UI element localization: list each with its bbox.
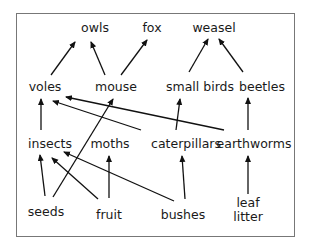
arrow-smallbirds-to-weasel (189, 39, 208, 72)
node-bushes: bushes (161, 208, 206, 222)
arrow-mouse-to-fox (121, 40, 147, 75)
node-leaf-litter-line2: litter (233, 210, 263, 224)
node-earthworms: earthworms (217, 137, 292, 151)
node-weasel: weasel (192, 21, 235, 35)
node-fox: fox (142, 21, 161, 35)
node-insects: insects (28, 137, 72, 151)
node-caterpillars: caterpillars (151, 137, 221, 151)
arrow-bushes-to-caterpillars (182, 156, 185, 199)
node-beetles: beetles (239, 80, 285, 94)
arrow-voles-to-owls (51, 42, 75, 75)
node-seeds: seeds (28, 205, 64, 219)
arrow-beetles-to-weasel (219, 39, 243, 72)
arrow-mouse-to-owls (91, 42, 105, 75)
arrow-seeds-to-insects (40, 155, 45, 196)
node-leaf-litter: leaf litter (233, 196, 263, 224)
node-moths: moths (90, 137, 129, 151)
arrow-bushes-to-insects (64, 152, 174, 201)
node-owls: owls (81, 21, 109, 35)
arrow-caterpillars-to-smallbirds (176, 99, 180, 130)
node-mouse: mouse (95, 80, 137, 94)
node-fruit: fruit (96, 208, 122, 222)
node-voles: voles (29, 80, 62, 94)
node-leaf-litter-line1: leaf (233, 196, 263, 210)
node-small-birds: small birds (166, 80, 234, 94)
